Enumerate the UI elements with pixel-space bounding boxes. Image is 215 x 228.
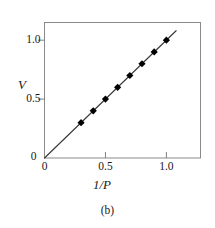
y-axis-title: V bbox=[18, 78, 26, 91]
y-axis-ticks bbox=[38, 40, 45, 99]
plot-frame bbox=[45, 23, 201, 159]
x-axis-title: 1/P bbox=[93, 178, 111, 191]
x-tick-label-1: 1.0 bbox=[154, 161, 178, 173]
x-tick-label-0: 0 bbox=[33, 161, 57, 173]
y-tick-label-1: 1.0 bbox=[17, 34, 41, 46]
figure-caption: (b) bbox=[0, 205, 215, 217]
y-tick-label-05: 0.5 bbox=[17, 93, 41, 105]
figure-panel: 1.0 0.5 0 0 0.5 1.0 V 1/P (b) bbox=[0, 0, 215, 228]
x-tick-label-05: 0.5 bbox=[93, 161, 117, 173]
